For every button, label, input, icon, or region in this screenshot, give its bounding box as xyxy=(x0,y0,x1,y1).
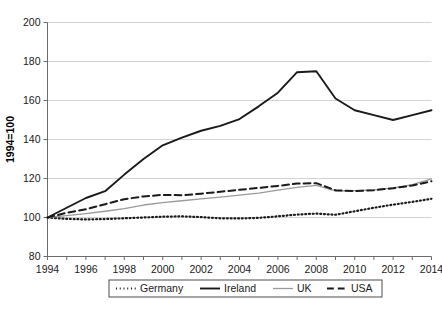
y-axis-tick-label: 200 xyxy=(23,16,41,28)
x-axis-tick-label: 2004 xyxy=(228,263,252,275)
y-axis-title: 1994=100 xyxy=(4,116,16,163)
x-axis-tick-label: 2006 xyxy=(266,263,290,275)
x-axis-tick-label: 1994 xyxy=(36,263,60,275)
legend-label-usa: USA xyxy=(351,282,373,294)
x-axis-tick-label: 2008 xyxy=(305,263,329,275)
y-axis-tick-label: 180 xyxy=(23,55,41,67)
y-axis-tick-label: 160 xyxy=(23,94,41,106)
x-axis-tick-label: 2010 xyxy=(343,263,367,275)
chart-figure: 8010012014016018020019941996199820002002… xyxy=(0,0,442,317)
figure-caption xyxy=(0,306,442,317)
x-axis-tick-label: 2012 xyxy=(381,263,405,275)
line-chart: 8010012014016018020019941996199820002002… xyxy=(0,0,442,317)
legend-label-uk: UK xyxy=(297,282,312,294)
legend-label-germany: Germany xyxy=(140,282,184,294)
series-line-uk xyxy=(48,179,432,218)
x-axis-tick-label: 2000 xyxy=(151,263,175,275)
series-line-usa xyxy=(48,181,432,217)
x-axis-tick-label: 1998 xyxy=(113,263,137,275)
y-axis-tick-label: 100 xyxy=(23,211,41,223)
y-axis-tick-label: 120 xyxy=(23,172,41,184)
x-axis-tick-label: 1996 xyxy=(74,263,98,275)
legend-label-ireland: Ireland xyxy=(224,282,256,294)
y-axis-tick-label: 80 xyxy=(29,250,41,262)
y-axis-tick-label: 140 xyxy=(23,133,41,145)
series-line-germany xyxy=(48,199,432,220)
x-axis-tick-label: 2002 xyxy=(189,263,213,275)
x-axis-tick-label: 2014 xyxy=(420,263,442,275)
